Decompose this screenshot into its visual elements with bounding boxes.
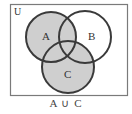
set-a-label: A	[42, 30, 50, 42]
set-b-label: B	[88, 30, 95, 42]
universe-label: U	[14, 6, 22, 17]
diagram-caption: A ∪ C	[0, 97, 132, 110]
set-c-label: C	[64, 68, 71, 80]
